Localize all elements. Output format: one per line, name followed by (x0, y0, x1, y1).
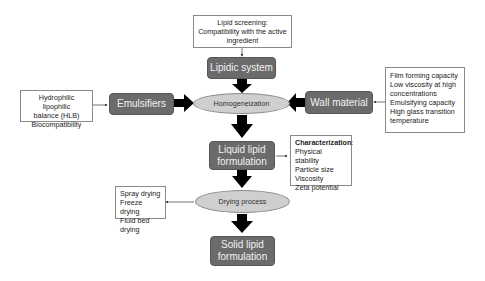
note-line: Film forming capacity (390, 71, 460, 80)
node-label: Emulsifiers (117, 98, 166, 110)
heading-text: Characterization (295, 138, 351, 147)
note-line: Emulsifying capacity (390, 98, 460, 107)
note-line: concentrations (390, 89, 460, 98)
note-line: Viscosity (295, 174, 347, 183)
emulsifiers-box: Emulsifiers (109, 93, 174, 115)
note-line: Particle size (295, 165, 347, 174)
note-line: Biocompatibility (25, 120, 88, 129)
note-line: Fluid bed drying (120, 216, 161, 234)
lipidic-system-box: Lipidic system (207, 57, 276, 79)
note-line: Physical stability (295, 147, 347, 165)
hlb-note: Hydrophilic lipophilic balance (HLB) Bio… (20, 90, 93, 122)
note-line: Compatibility with the active (198, 27, 287, 36)
solid-lipid-formulation-box: Solid lipid formulation (210, 236, 275, 266)
note-line: Lipid screening: (198, 18, 287, 27)
note-line: Freeze drying (120, 198, 161, 216)
node-label: Liquid lipid (218, 144, 265, 156)
note-line: Zeta potential (295, 183, 347, 192)
block-arrow-emulsifiers-right (174, 94, 194, 112)
drying-methods-note: Spray drying Freeze drying Fluid bed dry… (115, 186, 166, 219)
note-line: temperature (390, 116, 460, 125)
note-line: Spray drying (120, 189, 161, 198)
wall-material-note: Film forming capacity Low viscosity at h… (385, 67, 465, 133)
note-line: Low viscosity at high (390, 80, 460, 89)
drying-process-ellipse: Drying process (195, 190, 290, 213)
liquid-lipid-formulation-box: Liquid lipid formulation (209, 141, 275, 170)
node-label: formulation (218, 251, 267, 263)
characterization-note: Characterization: Physical stability Par… (290, 135, 352, 186)
node-label: Lipidic system (210, 62, 273, 74)
note-line: balance (HLB) (25, 111, 88, 120)
note-line: ingredient (198, 36, 287, 45)
heading-suffix: : (351, 138, 353, 147)
node-label: Homogeneization (214, 99, 270, 108)
block-arrow-drying-down (231, 214, 253, 233)
node-label: Solid lipid (221, 239, 264, 251)
characterization-heading: Characterization: (295, 138, 347, 147)
homogeneization-ellipse: Homogeneization (193, 93, 290, 114)
node-label: Wall material (310, 97, 367, 109)
lipid-screening-note: Lipid screening: Compatibility with the … (193, 15, 292, 48)
wall-material-box: Wall material (305, 91, 373, 114)
block-arrow-homog-down (231, 115, 253, 138)
node-label: formulation (217, 156, 266, 168)
node-label: Drying process (219, 197, 267, 206)
note-line: Hydrophilic lipophilic (25, 93, 88, 111)
note-line: High glass transition (390, 107, 460, 116)
block-arrow-lipidic-down (232, 79, 252, 93)
block-arrow-liquid-down (232, 170, 252, 188)
